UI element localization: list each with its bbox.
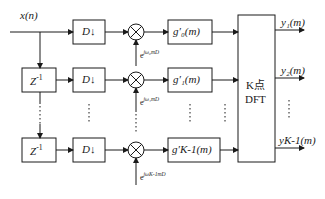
multiplier-1 [128, 24, 144, 40]
output-label-2: y₂(m) [281, 65, 305, 76]
filter-label-2: g′₁(m) [173, 74, 200, 85]
decimator-label-2: D↓ [82, 74, 95, 85]
delay-label-1: Z-1 [30, 74, 43, 87]
exp-label-1: ejω₀mD [140, 50, 159, 60]
decimator-label-1: D↓ [82, 26, 95, 37]
filter-label-3: g′K-1(m) [172, 144, 212, 155]
dft-label-line2: DFT [245, 94, 266, 105]
dft-label-line1: K点 [246, 80, 265, 91]
exp-label-3: ejωK-1mD [140, 172, 166, 182]
exp-label-2: ejω₁mD [140, 97, 159, 107]
output-label-3: yK-1(m) [279, 135, 316, 146]
output-label-1: y₁(m) [281, 17, 305, 28]
delay-label-2: Z-1 [30, 144, 43, 157]
input-label: x(n) [20, 10, 38, 21]
decimator-label-3: D↓ [82, 144, 95, 155]
multiplier-3 [128, 142, 144, 158]
multiplier-2 [128, 72, 144, 88]
filter-label-1: g′₀(m) [173, 26, 200, 37]
diagram-canvas [0, 0, 325, 199]
